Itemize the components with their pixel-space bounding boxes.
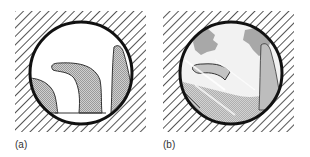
panel-a-graphic [0, 0, 155, 157]
panel-b-graphic [155, 0, 310, 157]
panel-a: (a) [0, 0, 155, 157]
panel-b: (b) [155, 0, 310, 157]
panel-b-label: (b) [163, 140, 175, 150]
panel-a-label: (a) [15, 140, 27, 150]
